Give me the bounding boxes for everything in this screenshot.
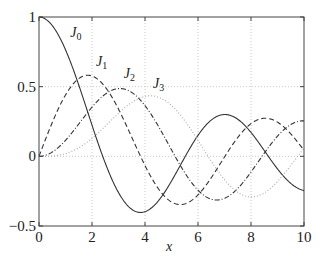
x-tick-label: 0 [35, 229, 43, 245]
y-tick-label: 1 [29, 9, 37, 25]
x-tick-label: 6 [194, 229, 202, 245]
label-j2: J2 [124, 66, 135, 83]
x-tick-label: 2 [88, 229, 96, 245]
x-tick-label: 8 [247, 229, 255, 245]
curve-j1 [39, 75, 304, 204]
label-j3: J3 [153, 76, 164, 93]
label-j0: J0 [70, 25, 81, 42]
plot-frame [39, 17, 304, 226]
x-tick-label: 4 [141, 229, 149, 245]
label-j1: J1 [96, 54, 107, 71]
y-tick-label: 0 [29, 148, 37, 164]
series-curves [39, 17, 304, 212]
x-axis-label: x [165, 239, 173, 254]
curve-labels: J0J1J2J3 [70, 25, 164, 94]
axis-ticks: 0246810−0.500.51 [9, 9, 312, 245]
curve-j2 [39, 89, 304, 200]
grid-lines [39, 17, 304, 226]
bessel-chart: 0246810−0.500.51 J0J1J2J3 x [0, 0, 326, 264]
y-tick-label: 0.5 [17, 79, 36, 95]
y-tick-label: −0.5 [9, 218, 36, 234]
curve-j0 [39, 17, 304, 212]
x-tick-label: 10 [297, 229, 312, 245]
